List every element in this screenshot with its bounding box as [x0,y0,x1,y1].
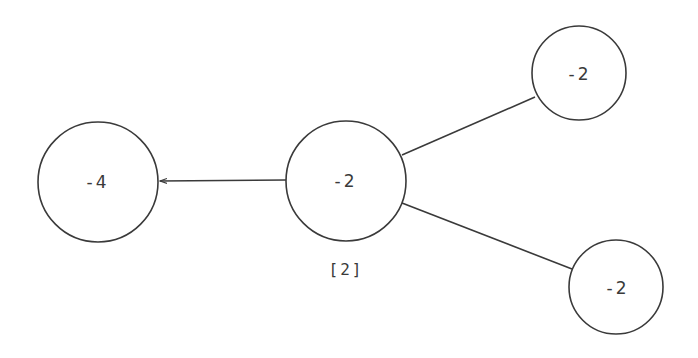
node-left-label: -4 [87,172,110,192]
node-bottom-right-label: -2 [607,278,630,298]
node-center-label: -2 [335,171,358,191]
edge-center-to-bottom-right [402,203,572,269]
node-center-annotation: [2] [329,260,364,279]
node-top-right-label: -2 [569,64,592,84]
edge-center-to-left [160,180,286,181]
edge-center-to-top-right [402,97,535,155]
